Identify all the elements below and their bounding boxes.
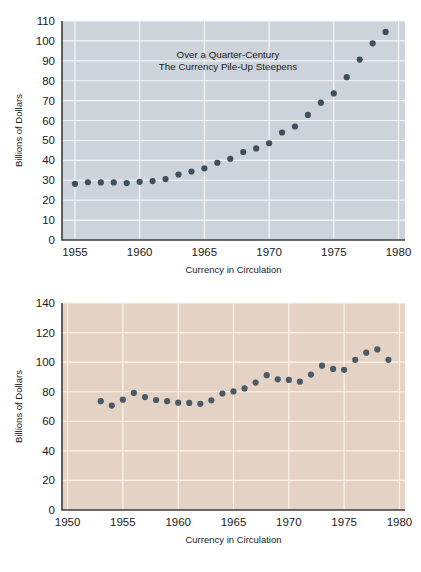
y-tick-label: 20 — [42, 474, 55, 486]
y-tick-label: 0 — [49, 504, 55, 516]
x-tick-label: 1955 — [110, 516, 136, 528]
y-tick-label: 80 — [42, 386, 55, 398]
data-point — [214, 160, 220, 166]
bottom-chart-panel: 0204060801001201401950195519601965197019… — [0, 286, 421, 572]
y-tick-label: 100 — [36, 35, 55, 47]
data-point — [188, 168, 194, 174]
y-tick-label: 100 — [36, 356, 55, 368]
data-point — [319, 363, 325, 369]
x-tick-label: 1965 — [221, 516, 247, 528]
data-point — [253, 145, 259, 151]
data-point — [357, 57, 363, 63]
data-point — [131, 390, 137, 396]
data-point — [331, 90, 337, 96]
data-point — [137, 179, 143, 185]
y-axis-label: Billions of Dollars — [13, 94, 24, 167]
chart-title-line-2: The Currency Pile-Up Steepens — [159, 61, 297, 72]
data-point — [150, 178, 156, 184]
x-tick-label: 1955 — [62, 246, 88, 258]
y-tick-label: 90 — [42, 55, 55, 67]
data-point — [230, 388, 236, 394]
x-tick-label: 1960 — [127, 246, 153, 258]
data-point — [297, 379, 303, 385]
x-tick-label: 1970 — [256, 246, 282, 258]
data-point — [385, 357, 391, 363]
data-point — [286, 377, 292, 383]
data-point — [197, 401, 203, 407]
chart-title-line-1: Over a Quarter-Century — [177, 49, 280, 60]
bottom-chart-svg: 0204060801001201401950195519601965197019… — [0, 286, 421, 572]
data-point — [253, 379, 259, 385]
data-point — [352, 357, 358, 363]
data-point — [344, 74, 350, 80]
data-point — [382, 29, 388, 35]
y-tick-label: 40 — [42, 154, 55, 166]
data-point — [162, 176, 168, 182]
x-axis-label: Currency in Circulation — [185, 534, 281, 545]
x-tick-label: 1965 — [192, 246, 218, 258]
data-point — [266, 140, 272, 146]
y-tick-label: 70 — [42, 95, 55, 107]
x-axis-label: Currency in Circulation — [185, 264, 281, 275]
data-point — [120, 397, 126, 403]
data-point — [142, 394, 148, 400]
data-point — [279, 129, 285, 135]
y-tick-label: 120 — [36, 327, 55, 339]
data-point — [175, 171, 181, 177]
data-point — [85, 179, 91, 185]
data-point — [219, 390, 225, 396]
y-tick-label: 10 — [42, 214, 55, 226]
data-point — [124, 180, 130, 186]
y-tick-label: 30 — [42, 174, 55, 186]
data-point — [175, 400, 181, 406]
data-point — [98, 179, 104, 185]
data-point — [275, 376, 281, 382]
y-tick-label: 60 — [42, 415, 55, 427]
data-point — [72, 181, 78, 187]
data-point — [241, 385, 247, 391]
y-tick-label: 60 — [42, 115, 55, 127]
data-point — [227, 156, 233, 162]
data-point — [208, 397, 214, 403]
y-tick-label: 40 — [42, 445, 55, 457]
y-tick-label: 20 — [42, 194, 55, 206]
x-tick-label: 1975 — [331, 516, 357, 528]
x-tick-label: 1970 — [276, 516, 302, 528]
data-point — [240, 149, 246, 155]
top-chart-panel: 0102030405060708090100110195519601965197… — [0, 0, 421, 286]
x-tick-label: 1950 — [55, 516, 81, 528]
data-point — [292, 123, 298, 129]
top-chart-svg: 0102030405060708090100110195519601965197… — [0, 0, 421, 286]
data-point — [318, 100, 324, 106]
y-axis-label: Billions of Dollars — [13, 370, 24, 443]
data-point — [98, 398, 104, 404]
data-point — [201, 165, 207, 171]
data-point — [186, 400, 192, 406]
data-point — [111, 179, 117, 185]
x-tick-label: 1980 — [386, 246, 412, 258]
x-tick-label: 1960 — [165, 516, 191, 528]
y-tick-label: 50 — [42, 134, 55, 146]
data-point — [109, 403, 115, 409]
data-point — [363, 350, 369, 356]
x-tick-label: 1975 — [321, 246, 347, 258]
data-point — [164, 398, 170, 404]
data-point — [264, 372, 270, 378]
y-tick-label: 140 — [36, 297, 55, 309]
x-tick-label: 1980 — [387, 516, 413, 528]
y-tick-label: 0 — [49, 234, 55, 246]
y-tick-label: 110 — [37, 15, 55, 27]
data-point — [153, 397, 159, 403]
data-point — [341, 367, 347, 373]
data-point — [330, 366, 336, 372]
y-tick-label: 80 — [42, 75, 55, 87]
data-point — [370, 40, 376, 46]
data-point — [305, 112, 311, 118]
data-point — [308, 371, 314, 377]
data-point — [374, 346, 380, 352]
